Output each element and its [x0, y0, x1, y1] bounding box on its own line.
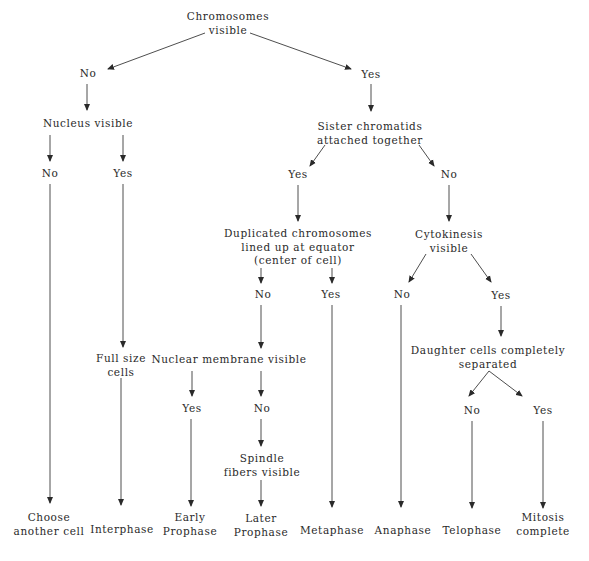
arrow-chromosomes_visible-to-chromosomes_no [108, 33, 205, 69]
node-label-line: Sister chromatids [317, 120, 423, 134]
answer-label: Yes [491, 289, 510, 303]
node-label-line: Daughter cells completely [411, 344, 565, 358]
node-label-line: Cytokinesis [415, 228, 483, 242]
node-label-line: cells [96, 365, 146, 379]
outcome-label-line: complete [516, 524, 570, 538]
answer-label: Yes [361, 68, 380, 82]
node-label-line: visible [187, 23, 269, 37]
answer-label: No [80, 67, 97, 81]
node-label-line: attached together [317, 133, 423, 147]
node-full-size-cells: Full size cells [96, 352, 146, 379]
answer-sister-no: No [441, 168, 458, 182]
arrow-daughter_cells_separated-to-daughter_no [469, 371, 489, 396]
node-label-line: Spindle [224, 452, 301, 466]
node-label-line: Nucleus visible [43, 117, 133, 131]
outcome-label-line: Choose [14, 511, 85, 525]
answer-duplicated-no: No [255, 288, 272, 302]
answer-label: No [254, 402, 271, 416]
node-label-line: lined up at equator [224, 240, 372, 254]
arrow-sister_chromatids-to-sister_no [419, 145, 434, 166]
outcome-label-line: Mitosis [516, 511, 570, 525]
outcome-label: Telophase [443, 524, 502, 538]
arrow-chromosomes_visible-to-chromosomes_yes [250, 33, 351, 69]
node-daughter-cells-separated: Daughter cells completely separated [411, 344, 565, 371]
answer-label: No [441, 168, 458, 182]
answer-nucleus-no: No [42, 167, 59, 181]
outcome-label-line: another cell [14, 524, 85, 538]
node-duplicated-chromosomes: Duplicated chromosomes lined up at equat… [224, 227, 372, 268]
outcome-interphase: Interphase [90, 523, 154, 537]
answer-label: Yes [182, 402, 201, 416]
outcome-label-line: Early [163, 511, 218, 525]
arrow-cytokinesis_visible-to-cytokinesis_no [409, 254, 426, 282]
node-label-line: visible [415, 241, 483, 255]
outcome-label: Metaphase [300, 524, 364, 538]
answer-label: No [394, 288, 411, 302]
node-label-line: separated [411, 357, 565, 371]
answer-cytokinesis-yes: Yes [491, 289, 510, 303]
outcome-label: Interphase [90, 523, 154, 537]
mitosis-flowchart: Chromosomes visible No Yes Nucleus visib… [0, 0, 589, 561]
answer-label: Yes [533, 404, 552, 418]
answer-nucleus-yes: Yes [113, 167, 132, 181]
outcome-label-line: Later [234, 512, 289, 526]
outcome-metaphase: Metaphase [300, 524, 364, 538]
outcome-label-line: Prophase [234, 525, 289, 539]
node-label-line: Duplicated chromosomes [224, 227, 372, 241]
node-label-line: Chromosomes [187, 10, 269, 24]
node-chromosomes-visible: Chromosomes visible [187, 10, 269, 37]
outcome-label: Anaphase [375, 524, 432, 538]
node-nucleus-visible: Nucleus visible [43, 117, 133, 131]
answer-duplicated-yes: Yes [321, 288, 340, 302]
answer-cytokinesis-no: No [394, 288, 411, 302]
node-cytokinesis-visible: Cytokinesis visible [415, 228, 483, 255]
answer-sister-yes: Yes [288, 168, 307, 182]
answer-daughter-yes: Yes [533, 404, 552, 418]
answer-label: Yes [288, 168, 307, 182]
outcome-telophase: Telophase [443, 524, 502, 538]
answer-membrane-no: No [254, 402, 271, 416]
answer-chromosomes-yes: Yes [361, 68, 380, 82]
outcome-label-line: Prophase [163, 524, 218, 538]
node-spindle-fibers-visible: Spindle fibers visible [224, 452, 301, 479]
node-label-line: (center of cell) [224, 254, 372, 268]
answer-label: Yes [321, 288, 340, 302]
answer-chromosomes-no: No [80, 67, 97, 81]
answer-label: Yes [113, 167, 132, 181]
outcome-anaphase: Anaphase [375, 524, 432, 538]
arrow-cytokinesis_visible-to-cytokinesis_yes [471, 254, 491, 282]
answer-membrane-yes: Yes [182, 402, 201, 416]
node-nuclear-membrane-visible: Nuclear membrane visible [151, 353, 306, 367]
arrow-daughter_cells_separated-to-daughter_yes [489, 371, 522, 396]
answer-label: No [42, 167, 59, 181]
answer-label: No [464, 404, 481, 418]
node-label-line: fibers visible [224, 465, 301, 479]
node-label-line: Full size [96, 352, 146, 366]
node-label-line: Nuclear membrane visible [151, 353, 306, 367]
answer-label: No [255, 288, 272, 302]
outcome-later-prophase: Later Prophase [234, 512, 289, 539]
outcome-early-prophase: Early Prophase [163, 511, 218, 538]
node-sister-chromatids: Sister chromatids attached together [317, 120, 423, 147]
arrow-sister_chromatids-to-sister_yes [310, 145, 325, 166]
outcome-choose-another-cell: Choose another cell [14, 511, 85, 538]
outcome-mitosis-complete: Mitosis complete [516, 511, 570, 538]
answer-daughter-no: No [464, 404, 481, 418]
